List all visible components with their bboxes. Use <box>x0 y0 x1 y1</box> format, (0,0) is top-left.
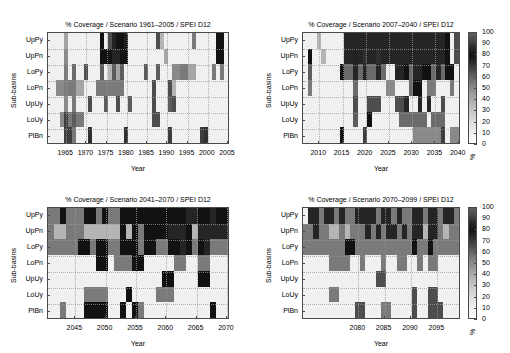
panel-title: % Coverage / Scenario 1961–2005 / SPEI D… <box>47 20 229 29</box>
colorbar-tick-40: 40 <box>482 95 490 103</box>
heatmap-plot-area[interactable] <box>47 32 229 144</box>
x-tick-label-2035: 2035 <box>427 149 443 157</box>
x-tick-label-2005: 2005 <box>219 149 235 157</box>
heatmap-plot-area[interactable] <box>47 207 229 319</box>
colorbar-tick-70: 70 <box>482 237 490 245</box>
colorbar-tick-20: 20 <box>482 293 490 301</box>
x-tick-label-1980: 1980 <box>118 149 134 157</box>
colorbar-unit-label: % <box>469 154 477 160</box>
y-tick-label-lopn: LoPn <box>27 84 43 92</box>
colorbar[interactable] <box>468 32 477 144</box>
x-tick-label-2045: 2045 <box>67 324 83 332</box>
gridline-horizontal <box>48 240 228 241</box>
colorbar-tick-50: 50 <box>482 259 490 267</box>
gridline-horizontal <box>48 49 228 50</box>
y-tick-label-plbn: PlBn <box>28 132 43 140</box>
gridline-vertical <box>228 33 229 143</box>
colorbar-tick-mark <box>474 319 477 320</box>
y-tick-label-lopy: LoPy <box>282 243 298 251</box>
y-tick-label-lopn: LoPn <box>282 84 298 92</box>
gridline-horizontal <box>48 256 228 257</box>
x-tick-label-1985: 1985 <box>138 149 154 157</box>
y-tick-label-louy: LoUy <box>282 116 298 124</box>
y-axis-label: Sub-basins <box>9 248 18 283</box>
gridline-horizontal <box>303 272 459 273</box>
y-tick-label-uppy: UpPy <box>26 211 43 219</box>
y-tick-label-uppy: UpPy <box>281 36 298 44</box>
x-tick-label-2090: 2090 <box>402 324 418 332</box>
y-tick-label-louy: LoUy <box>27 116 43 124</box>
y-tick-label-lopn: LoPn <box>27 259 43 267</box>
y-tick-label-plbn: PlBn <box>28 307 43 315</box>
colorbar-tick-30: 30 <box>482 281 490 289</box>
y-tick-label-lopy: LoPy <box>282 68 298 76</box>
colorbar-tick-90: 90 <box>482 39 490 47</box>
gridline-horizontal <box>303 49 459 50</box>
colorbar-tick-mark <box>474 144 477 145</box>
x-tick-label-1995: 1995 <box>179 149 195 157</box>
gridline-horizontal <box>48 113 228 114</box>
y-tick-label-uppn: UpPn <box>280 227 298 235</box>
y-tick-label-louy: LoUy <box>27 291 43 299</box>
x-axis-label: Year <box>47 339 229 348</box>
x-tick-label-1970: 1970 <box>78 149 94 157</box>
gridline-horizontal <box>48 81 228 82</box>
colorbar-tick-90: 90 <box>482 214 490 222</box>
x-tick-label-2065: 2065 <box>188 324 204 332</box>
colorbar-tick-70: 70 <box>482 62 490 70</box>
x-tick-label-2080: 2080 <box>350 324 366 332</box>
y-tick-label-uppy: UpPy <box>26 36 43 44</box>
y-tick-label-uppn: UpPn <box>25 52 43 60</box>
colorbar-tick-30: 30 <box>482 106 490 114</box>
heatmap-cell <box>454 224 459 240</box>
y-tick-label-upuy: UpUy <box>25 275 43 283</box>
x-tick-label-2070: 2070 <box>218 324 234 332</box>
colorbar-tick-20: 20 <box>482 118 490 126</box>
heatmap-plot-area[interactable] <box>302 32 460 144</box>
x-tick-label-2095: 2095 <box>429 324 445 332</box>
panel-title: % Coverage / Scenario 2007–2040 / SPEI D… <box>302 20 460 29</box>
y-tick-label-uppn: UpPn <box>25 227 43 235</box>
y-axis-label: Sub-basins <box>9 73 18 108</box>
y-tick-label-upuy: UpUy <box>280 100 298 108</box>
x-tick-label-1990: 1990 <box>159 149 175 157</box>
colorbar-tick-100: 100 <box>482 28 494 36</box>
colorbar-tick-80: 80 <box>482 50 490 58</box>
panel-title: % Coverage / Scenario 2070–2099 / SPEI D… <box>302 195 460 204</box>
y-tick-label-lopn: LoPn <box>282 259 298 267</box>
heatmap-cell <box>454 271 459 287</box>
x-axis-label: Year <box>302 164 460 173</box>
x-axis-label: Year <box>302 339 460 348</box>
gridline-horizontal <box>48 304 228 305</box>
colorbar-tick-100: 100 <box>482 203 494 211</box>
y-tick-label-plbn: PlBn <box>283 132 298 140</box>
colorbar-tick-10: 10 <box>482 129 490 137</box>
x-tick-label-2025: 2025 <box>380 149 396 157</box>
heatmap-plot-area[interactable] <box>302 207 460 319</box>
colorbar-tick-60: 60 <box>482 248 490 256</box>
x-tick-label-2030: 2030 <box>403 149 419 157</box>
x-tick-label-1975: 1975 <box>98 149 114 157</box>
y-tick-label-lopy: LoPy <box>27 68 43 76</box>
x-tick-label-2085: 2085 <box>376 324 392 332</box>
heatmap-cell <box>454 255 459 271</box>
colorbar[interactable] <box>468 207 477 319</box>
y-tick-label-lopy: LoPy <box>27 243 43 251</box>
gridline-horizontal <box>48 97 228 98</box>
colorbar-tick-0: 0 <box>482 140 486 148</box>
gridline-horizontal <box>303 256 459 257</box>
y-axis-label: Sub-basins <box>264 248 273 283</box>
gridline-horizontal <box>303 288 459 289</box>
colorbar-tick-80: 80 <box>482 225 490 233</box>
y-tick-label-plbn: PlBn <box>283 307 298 315</box>
gridline-horizontal <box>303 224 459 225</box>
gridline-horizontal <box>303 240 459 241</box>
y-tick-label-louy: LoUy <box>282 291 298 299</box>
y-axis-label: Sub-basins <box>264 73 273 108</box>
gridline-horizontal <box>48 272 228 273</box>
heatmap-cell <box>454 208 459 224</box>
x-tick-label-2060: 2060 <box>158 324 174 332</box>
y-tick-label-uppn: UpPn <box>280 52 298 60</box>
gridline-horizontal <box>303 65 459 66</box>
colorbar-tick-40: 40 <box>482 270 490 278</box>
